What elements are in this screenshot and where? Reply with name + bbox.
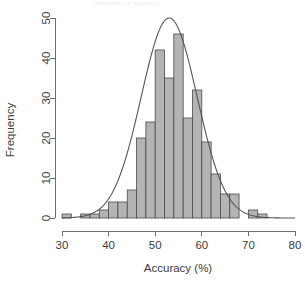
x-axis-tick-label: 70 [242,239,255,251]
histogram-bar [230,194,239,218]
x-axis: 304050607080 [56,231,302,251]
histogram-bar [109,202,118,218]
histogram-bar [165,78,174,218]
y-axis-title: Frequency [4,103,16,158]
y-axis: 01020304050 [40,12,55,222]
x-axis-tick-label: 30 [56,239,69,251]
x-axis-tick-label: 50 [149,239,162,251]
histogram-bar [202,142,211,218]
y-axis-tick-label: 0 [40,215,52,221]
histogram-figure: Histogram of accuracy 01020304050 304050… [0,0,305,285]
y-axis-tick-label: 50 [40,12,52,25]
histogram-bar [183,118,192,218]
x-axis-tick-label: 60 [195,239,208,251]
histogram-bar [90,214,99,218]
y-axis-tick-label: 30 [40,92,52,105]
y-axis-tick-label: 40 [40,52,52,65]
y-axis-tick-label: 10 [40,172,52,185]
x-axis-tick-label: 40 [102,239,115,251]
x-axis-title: Accuracy (%) [144,262,213,274]
faint-title-fragment: Histogram of accuracy [95,0,215,10]
histogram-bar [174,34,183,218]
histogram-bar [137,138,146,218]
y-axis-tick-label: 20 [40,132,52,145]
histogram-bars [62,34,267,218]
histogram-bar [99,210,108,218]
histogram-bar [146,122,155,218]
histogram-bar [118,202,127,218]
histogram-plot: 01020304050 304050607080 Frequency Accur… [0,0,305,285]
x-axis-tick-label: 80 [289,239,302,251]
histogram-bar [127,190,136,218]
histogram-bar [211,174,220,218]
histogram-bar [155,50,164,218]
